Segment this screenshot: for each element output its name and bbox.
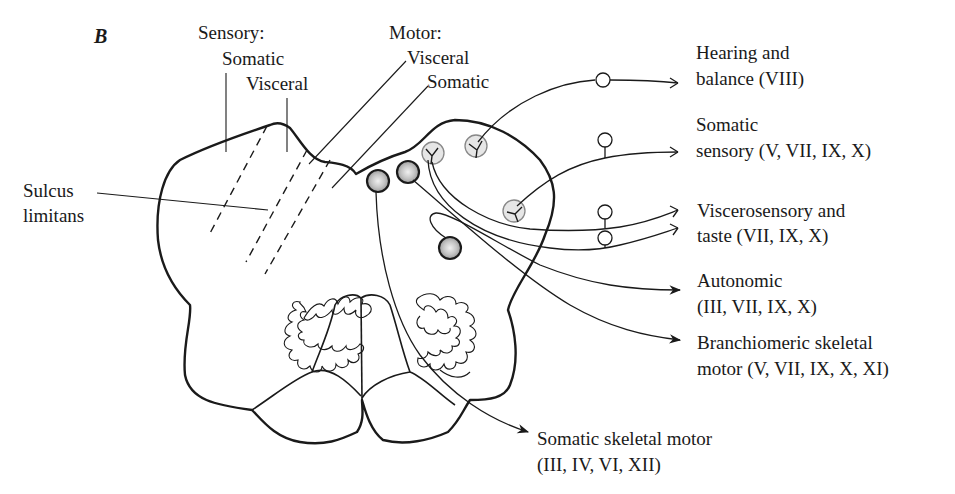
motor-header: Motor:	[389, 22, 442, 44]
branchiomeric-label-line2: motor (V, VII, IX, X, XI)	[697, 358, 889, 380]
inferior-olive-right	[416, 294, 476, 377]
autonomic-label-line1: Autonomic	[697, 270, 783, 292]
panel-label: B	[94, 25, 107, 47]
autonomic-nucleus	[439, 237, 461, 259]
autonomic-label-line2: (III, VII, IX, X)	[697, 296, 817, 318]
sensory-header: Sensory:	[198, 22, 265, 44]
viscerosensory-label-line2: taste (VII, IX, X)	[697, 225, 828, 247]
efferent-pathways	[376, 180, 680, 432]
hearing-label-line2: balance (VIII)	[696, 68, 804, 90]
somatic-motor-nucleus	[367, 170, 389, 192]
somatic-skeletal-label-line1: Somatic skeletal motor	[537, 428, 712, 450]
sensory-visceral-label: Visceral	[246, 73, 308, 95]
sulcus-limitans-label-line1: Sulcus	[23, 180, 74, 202]
somatic-sensory-label-line2: sensory (V, VII, IX, X)	[696, 140, 871, 162]
motor-somatic-label: Somatic	[427, 71, 489, 93]
sulcus-limitans-label-line2: limitans	[23, 205, 84, 227]
somatic-skeletal-label-line2: (III, IV, VI, XII)	[537, 454, 661, 476]
trigeminal-sensory-nucleus	[503, 200, 525, 222]
inferior-olive-left	[284, 297, 371, 372]
viscerosensory-label-line1: Viscerosensory and	[697, 200, 845, 222]
brainstem-outline	[157, 120, 554, 443]
branchiomeric-label-line1: Branchiomeric skeletal	[697, 332, 873, 354]
motor-visceral-label: Visceral	[407, 47, 469, 69]
sensory-somatic-label: Somatic	[222, 48, 284, 70]
somatic-sensory-label-line1: Somatic	[696, 114, 758, 136]
branchiomeric-motor-nucleus	[397, 161, 419, 183]
hearing-label-line1: Hearing and	[696, 42, 789, 64]
viscerosensory-nucleus	[422, 142, 444, 164]
